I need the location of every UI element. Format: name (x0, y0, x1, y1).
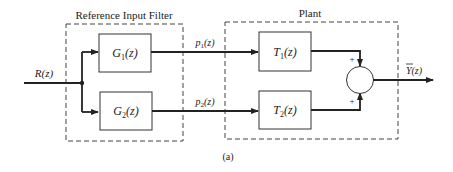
figure-caption: (a) (222, 151, 233, 163)
output-label: Y(z) (406, 65, 423, 77)
output-signal: Y(z) (373, 64, 433, 80)
plant-group-label: Plant (299, 7, 322, 19)
filter-group-label: Reference Input Filter (75, 9, 172, 21)
block-diagram: Reference Input Filter Plant R(z) G1(z) … (0, 0, 453, 172)
svg-text:p1(z): p1(z) (194, 37, 215, 50)
block-g1: G1(z) (99, 34, 151, 72)
svg-text:T1(z): T1(z) (273, 45, 296, 61)
svg-text:p2(z): p2(z) (194, 96, 215, 109)
svg-text:G2(z): G2(z) (113, 104, 138, 120)
svg-text:T2(z): T2(z) (273, 103, 296, 119)
block-g2: G2(z) (100, 92, 152, 130)
block-t1: T1(z) (259, 32, 311, 71)
sign-plus-top: + (349, 54, 354, 64)
signal-p1: p1(z) (151, 37, 258, 52)
block-t2: T2(z) (259, 91, 311, 129)
input-label: R(z) (34, 67, 54, 80)
input-signal: R(z) (24, 67, 84, 85)
svg-text:G1(z): G1(z) (112, 46, 137, 62)
sign-plus-bottom: + (349, 96, 354, 106)
signal-p2: p2(z) (152, 96, 258, 111)
